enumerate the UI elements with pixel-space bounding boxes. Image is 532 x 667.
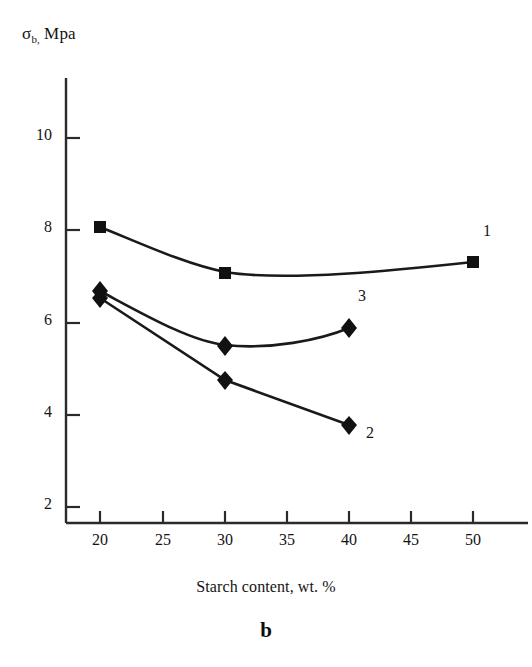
series-1-curve [94,221,479,279]
figure-container: σb, Mpa [0,0,532,667]
x-tick-label-45: 45 [391,531,431,549]
y-axis-ticks [66,138,80,507]
series-label-1: 1 [483,222,491,240]
figure-caption: b [0,618,532,643]
x-tick-label-50: 50 [453,531,493,549]
series-2-curve [92,289,357,435]
series-1-line [100,227,473,276]
x-tick-label-40: 40 [329,531,369,549]
x-tick-label-20: 20 [80,531,120,549]
series-label-2: 2 [366,424,374,442]
series-1-marker-20 [94,221,106,233]
x-axis-ticks [100,511,473,523]
x-tick-label-25: 25 [143,531,183,549]
series-3-marker-40 [341,318,357,338]
y-tick-label-2: 2 [12,495,52,513]
y-tick-label-6: 6 [12,311,52,329]
x-tick-label-30: 30 [205,531,245,549]
x-axis-label: Starch content, wt. % [0,578,532,596]
series-2-marker-40 [341,416,357,435]
series-2-marker-30 [217,371,233,390]
y-tick-label-4: 4 [12,403,52,421]
chart-plot-area [0,0,532,667]
y-tick-label-8: 8 [12,218,52,236]
series-3-marker-30 [217,336,233,356]
x-tick-label-35: 35 [267,531,307,549]
series-1-marker-50 [467,256,479,268]
axes [66,78,528,523]
series-2-line [100,298,349,425]
series-label-3: 3 [358,287,366,305]
series-1-marker-30 [219,267,231,279]
y-tick-label-10: 10 [12,126,52,144]
